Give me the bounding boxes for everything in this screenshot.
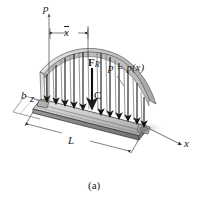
centroid-label: C [94, 90, 101, 101]
pressure-axis [48, 13, 51, 101]
depth-axis-label: z [30, 93, 34, 104]
width-axis-label: b [21, 90, 27, 101]
pressure-function-label: p = p(x) [108, 62, 144, 73]
length-dimension-label: L [68, 135, 74, 146]
xbar-overbar: x [64, 26, 69, 38]
pressure-function-leader [117, 76, 124, 86]
xbar-dimension-label: x [64, 26, 69, 38]
resultant-force-symbol: F [88, 56, 95, 68]
pressure-axis-label: p [43, 3, 49, 14]
resultant-force-label: FR [88, 57, 100, 69]
figure-mechanics-distributed-load: p x FR p = p(x) C b z L x (a) [0, 0, 197, 200]
figure-caption: (a) [88, 180, 100, 191]
loaded-plate [33, 99, 147, 140]
resultant-force-subscript: R [95, 60, 100, 69]
x-axis-label: x [184, 138, 189, 149]
